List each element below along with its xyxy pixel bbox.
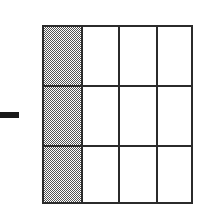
grid-cell-r2-c1 bbox=[42, 85, 81, 145]
grid-cell-r3-c1 bbox=[42, 145, 81, 204]
grid-cell-r2-c3 bbox=[118, 85, 156, 145]
grid-cell-r3-c3 bbox=[118, 145, 156, 204]
grid-rule-vertical-1 bbox=[81, 25, 83, 204]
grid-area-model bbox=[42, 25, 193, 204]
grid-rule-vertical-0 bbox=[42, 25, 44, 204]
grid-cell-r3-c4 bbox=[156, 145, 193, 204]
grid-rule-vertical-2 bbox=[118, 25, 120, 204]
grid-cell-r1-c4 bbox=[156, 25, 193, 85]
grid-rule-vertical-4 bbox=[191, 25, 193, 204]
grid-rule-vertical-3 bbox=[156, 25, 158, 204]
figure-canvas: Rectangular area model partitioned into … bbox=[0, 0, 207, 215]
grid-cell-r1-c1 bbox=[42, 25, 81, 85]
grid-cell-r3-c2 bbox=[81, 145, 118, 204]
grid-cell-r1-c3 bbox=[118, 25, 156, 85]
grid-cell-r1-c2 bbox=[81, 25, 118, 85]
grid-cell-r2-c2 bbox=[81, 85, 118, 145]
minus-dash-mark bbox=[0, 112, 19, 118]
grid-cell-r2-c4 bbox=[156, 85, 193, 145]
